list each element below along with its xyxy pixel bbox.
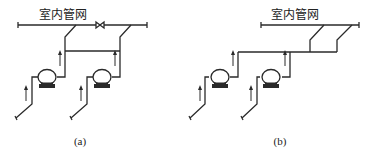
caption-a: (a) (74, 135, 87, 148)
diagram-a: 室内管网 (15, 7, 147, 120)
flow-arrow-icon (58, 50, 62, 66)
flow-arrow-icon (113, 50, 117, 66)
caption-b: (b) (274, 135, 287, 148)
indoor-network-label-a: 室内管网 (39, 7, 87, 22)
flow-arrow-icon (24, 85, 28, 101)
discharge-pipe-b1 (230, 52, 238, 77)
branch-pipe-b1 (310, 25, 324, 52)
valve-icon (96, 22, 104, 28)
flow-arrow-icon (79, 85, 83, 101)
pump-icon (262, 70, 280, 89)
suction-pipe-a2 (71, 77, 93, 118)
pump-piping-diagrams: 室内管网 (a) 室内管网 (0, 0, 371, 154)
indoor-network-label-b: 室内管网 (271, 7, 319, 22)
suction-pipe-a1 (16, 77, 38, 118)
flow-arrow-icon (249, 85, 253, 101)
pump-icon (93, 70, 111, 89)
pump-icon (38, 70, 56, 89)
pump-icon (211, 70, 229, 89)
flow-arrow-icon (231, 50, 235, 66)
flow-arrow-icon (198, 85, 202, 101)
discharge-pipe-b2 (282, 52, 290, 77)
diagram-b: 室内管网 (189, 7, 359, 120)
branch-pipe-b2 (337, 25, 352, 52)
